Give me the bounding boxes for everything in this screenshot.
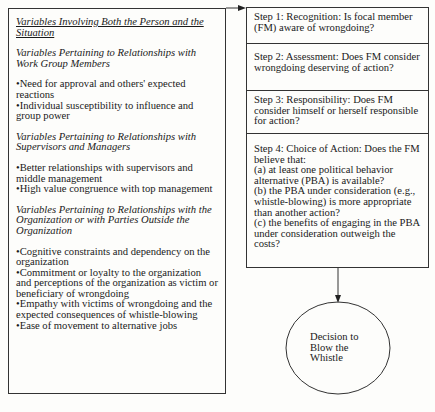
step-3: Step 3: Responsibility: Does FM consider… [247, 91, 428, 134]
decision-label: Decision to Blow the Whistle [310, 332, 362, 364]
step-4-option-c: (c) the benefits of engaging in the PBA … [254, 218, 421, 250]
list-item: Commitment or loyalty to the organizatio… [16, 268, 218, 300]
list-item: Cognitive constraints and dependency on … [16, 247, 218, 268]
step-4-intro: Step 4: Choice of Action: Does the FM be… [254, 144, 421, 165]
step-2-text: Step 2: Assessment: Does FM consider wro… [254, 51, 420, 73]
arrowhead-right-icon [238, 5, 246, 11]
variables-box: Variables Involving Both the Person and … [8, 8, 226, 394]
list-item: Need for approval and others' expected r… [16, 79, 218, 100]
step-4: Step 4: Choice of Action: Does the FM be… [247, 134, 428, 267]
organization-list: Cognitive constraints and dependency on … [16, 247, 218, 332]
list-item: High value congruence with top managemen… [16, 184, 218, 195]
section-title-work-group: Variables Pertaining to Relationships wi… [16, 48, 218, 69]
step-3-text: Step 3: Responsibility: Does FM consider… [254, 94, 418, 126]
supervisors-list: Better relationships with supervisors an… [16, 163, 218, 195]
variables-heading: Variables Involving Both the Person and … [16, 17, 218, 38]
list-item: Ease of movement to alternative jobs [16, 321, 218, 332]
section-title-organization: Variables Pertaining to Relationships wi… [16, 205, 218, 237]
step-4-option-a: (a) at least one political behavior alte… [254, 165, 421, 186]
work-group-list: Need for approval and others' expected r… [16, 79, 218, 121]
step-1: Step 1: Recognition: Is focal member (FM… [247, 8, 428, 44]
step-4-option-b: (b) the PBA under consideration (e.g., w… [254, 186, 421, 218]
decision-node: Decision to Blow the Whistle [286, 302, 390, 394]
section-title-supervisors: Variables Pertaining to Relationships wi… [16, 132, 218, 153]
list-item: Better relationships with supervisors an… [16, 163, 218, 184]
steps-box: Step 1: Recognition: Is focal member (FM… [246, 7, 429, 268]
list-item: Empathy with victims of wrongdoing and t… [16, 299, 218, 320]
step-2: Step 2: Assessment: Does FM consider wro… [247, 44, 428, 91]
step-1-text: Step 1: Recognition: Is focal member (FM… [254, 11, 413, 33]
list-item: Individual susceptibility to influence a… [16, 101, 218, 122]
